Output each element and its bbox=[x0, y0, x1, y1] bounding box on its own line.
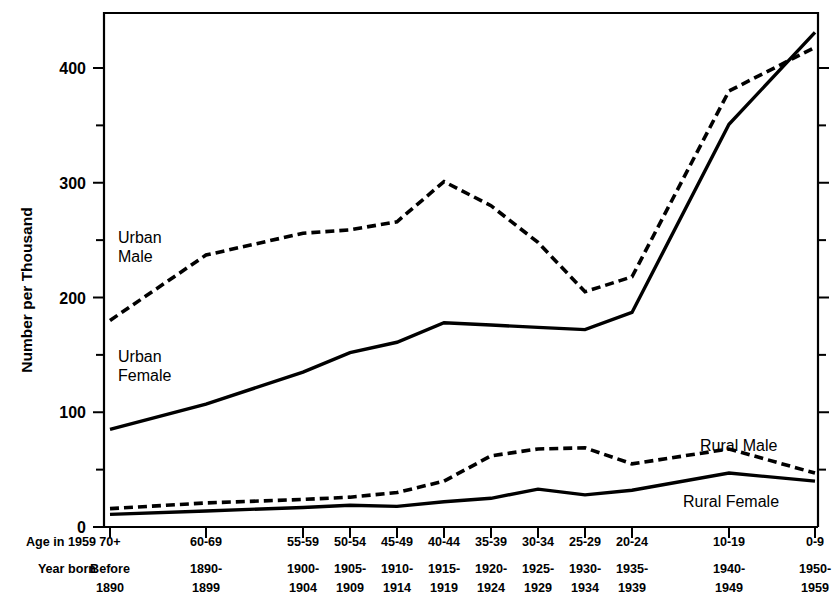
y-tick-label: 0 bbox=[77, 519, 86, 536]
x-category-label: 45-49 bbox=[381, 535, 413, 549]
x-yearborn-label-end: 1899 bbox=[192, 581, 220, 595]
x-yearborn-label-end: 1909 bbox=[336, 581, 364, 595]
x-yearborn-label-start: 1930- bbox=[569, 562, 601, 576]
x-category-label: 10-19 bbox=[713, 535, 745, 549]
row-header-age: Age in 1959 bbox=[26, 535, 96, 549]
y-tick-label: 200 bbox=[59, 290, 86, 307]
x-yearborn-label-start: 1925- bbox=[522, 562, 554, 576]
x-category-label: 20-24 bbox=[616, 535, 648, 549]
urban-female-label-line1: Urban bbox=[118, 348, 162, 365]
urban-male-label-line2: Male bbox=[118, 248, 153, 265]
y-tick-label: 300 bbox=[59, 175, 86, 192]
urban-male-label-line1: Urban bbox=[118, 229, 162, 246]
x-yearborn-label-end: 1939 bbox=[618, 581, 646, 595]
x-yearborn-label-start: 1905- bbox=[334, 562, 366, 576]
y-tick-label: 100 bbox=[59, 404, 86, 421]
y-axis-title: Number per Thousand bbox=[18, 207, 35, 372]
x-yearborn-label-start: 1940- bbox=[713, 562, 745, 576]
x-yearborn-label-end: 1924 bbox=[477, 581, 505, 595]
x-category-label: 35-39 bbox=[475, 535, 507, 549]
x-yearborn-label-end: 1919 bbox=[430, 581, 458, 595]
x-category-label: 0-9 bbox=[806, 535, 824, 549]
x-yearborn-label-end: 1890 bbox=[96, 581, 124, 595]
line-chart: Number per Thousand 0100200300400 UrbanM… bbox=[0, 0, 835, 598]
x-yearborn-label-end: 1959 bbox=[801, 581, 829, 595]
x-yearborn-label-start: 1910- bbox=[381, 562, 413, 576]
rural-male-label-line1: Rural Male bbox=[700, 437, 777, 454]
x-yearborn-label-start: Before bbox=[90, 562, 130, 576]
x-category-label: 70+ bbox=[99, 535, 120, 549]
chart-container: Number per Thousand 0100200300400 UrbanM… bbox=[0, 0, 835, 598]
x-category-label: 30-34 bbox=[522, 535, 554, 549]
x-yearborn-label-start: 1915- bbox=[428, 562, 460, 576]
rural-female-label-line1: Rural Female bbox=[683, 493, 779, 510]
urban-female-label-line2: Female bbox=[118, 367, 171, 384]
x-category-label: 25-29 bbox=[569, 535, 601, 549]
rural-female-label: Rural Female bbox=[683, 493, 779, 510]
x-category-label: 50-54 bbox=[334, 535, 366, 549]
x-yearborn-label-start: 1890- bbox=[190, 562, 222, 576]
x-yearborn-label-end: 1934 bbox=[571, 581, 599, 595]
x-yearborn-label-start: 1935- bbox=[616, 562, 648, 576]
x-category-label: 60-69 bbox=[190, 535, 222, 549]
x-category-label: 55-59 bbox=[287, 535, 319, 549]
x-yearborn-label-end: 1914 bbox=[383, 581, 411, 595]
y-tick-label: 400 bbox=[59, 60, 86, 77]
x-yearborn-label-start: 1950- bbox=[799, 562, 831, 576]
x-yearborn-label-end: 1929 bbox=[524, 581, 552, 595]
x-yearborn-label-start: 1920- bbox=[475, 562, 507, 576]
x-category-label: 40-44 bbox=[428, 535, 460, 549]
x-yearborn-label-start: 1900- bbox=[287, 562, 319, 576]
x-yearborn-label-end: 1904 bbox=[289, 581, 317, 595]
rural-male-label: Rural Male bbox=[700, 437, 777, 454]
row-header-year-born: Year born bbox=[38, 562, 96, 576]
x-yearborn-label-end: 1949 bbox=[715, 581, 743, 595]
